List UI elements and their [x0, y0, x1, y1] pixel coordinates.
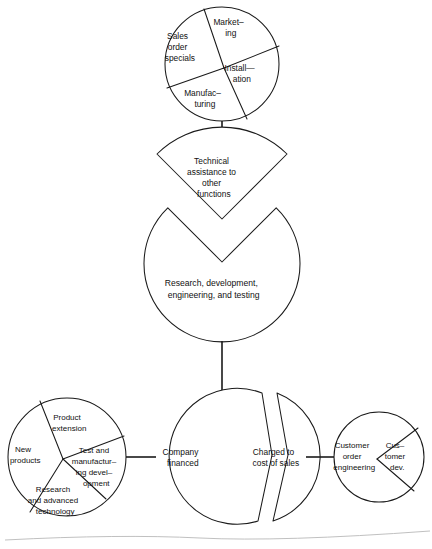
- segment-label-product-extension: Product extension: [0, 0, 102, 433]
- node-bottom-left-pie[interactable]: Product extension Test and manufactur– i…: [0, 0, 136, 516]
- segment-label-marketing: Market– ing: [0, 0, 265, 38]
- node-top-pie[interactable]: Market– ing Install— ation Manufac– turi…: [0, 0, 279, 121]
- segment-label-new-products: New products: [0, 0, 56, 465]
- diagram-canvas: Market– ing Install— ation Manufac– turi…: [0, 0, 432, 549]
- diagram-svg: Market– ing Install— ation Manufac– turi…: [0, 0, 432, 549]
- segment-label-sales-order-specials: Sales order specials: [0, 0, 211, 63]
- page-edge-artifact: [5, 531, 430, 540]
- research-development-circle: [144, 208, 300, 342]
